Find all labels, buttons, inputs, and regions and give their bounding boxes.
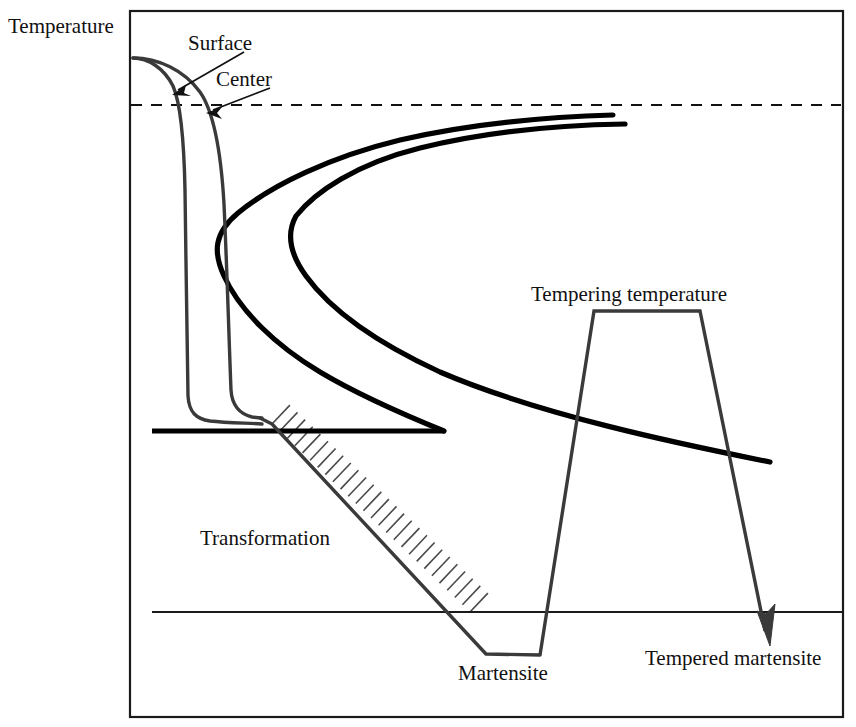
hatch-tick [325,456,343,475]
hatch-tick [303,434,321,453]
hatch-tick [402,528,420,547]
surface-cooling-curve [133,58,262,424]
hatch-tick [280,412,298,431]
tempered-martensite-label: Tempered martensite [645,646,821,670]
tempering-cycle-path [540,311,765,655]
transformation-hatching [272,405,488,612]
hatch-tick [379,506,397,525]
hatch-tick [371,499,389,518]
hatch-tick [348,478,366,497]
hatch-tick [356,485,374,504]
hatch-tick [341,470,359,489]
surface-label: Surface [188,31,252,55]
hatch-tick [333,463,351,482]
hatch-tick [462,586,480,605]
hatch-tick [432,557,450,576]
hatch-tick [272,405,290,424]
hatch-tick [409,535,427,554]
center-label: Center [216,67,272,91]
tempering-temperature-label: Tempering temperature [531,282,727,306]
hatch-tick [447,572,465,591]
martensite-label: Martensite [458,661,548,685]
center-leader-line [213,88,270,110]
hatch-tick [363,492,381,511]
hatch-tick [455,579,473,598]
heat-treatment-diagram: Temperature Surface Center Tempering tem… [0,0,856,727]
hatch-tick [310,441,328,460]
hatch-tick [417,543,435,562]
ttt-diagram-canvas: Temperature Surface Center Tempering tem… [0,0,856,727]
hatch-tick [394,521,412,540]
transformation-label: Transformation [200,526,330,550]
hatch-tick [440,564,458,583]
hatch-tick [424,550,442,569]
hatch-tick [470,593,488,612]
page-title: Temperature [8,14,114,38]
ttt-curve-start [217,115,613,431]
hatch-tick [386,514,404,533]
center-cooling-curve [133,58,262,418]
hatch-tick [318,449,336,468]
